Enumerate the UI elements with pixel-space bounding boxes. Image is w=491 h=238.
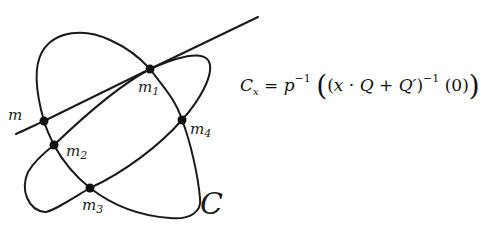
point-m bbox=[40, 117, 49, 126]
formula-x: x bbox=[334, 75, 344, 95]
point-m2 bbox=[50, 141, 59, 150]
formula-plus: + bbox=[374, 75, 399, 95]
point-m3 bbox=[86, 184, 95, 193]
label-m: m bbox=[8, 106, 22, 124]
formula-p-exp: −1 bbox=[295, 72, 311, 85]
formula-inner-exp: −1 bbox=[423, 72, 439, 85]
formula: Cx = p−1 ((x · Q + Q′)−1 (0)) bbox=[240, 66, 480, 107]
label-m1: m1 bbox=[138, 78, 159, 98]
formula-q: Q bbox=[360, 75, 374, 95]
formula-dot: · bbox=[343, 75, 359, 95]
label-curve-c: C bbox=[200, 186, 223, 221]
tilted-ellipse bbox=[25, 55, 210, 212]
formula-open: ( bbox=[327, 75, 334, 95]
secant-line bbox=[16, 17, 258, 134]
formula-close-big: ) bbox=[469, 69, 480, 102]
point-m1 bbox=[146, 65, 155, 74]
formula-open-big: ( bbox=[316, 69, 327, 102]
label-m3: m3 bbox=[82, 196, 103, 216]
formula-eq: = bbox=[259, 75, 284, 95]
formula-qprime: Q′ bbox=[399, 75, 417, 95]
formula-p: p bbox=[284, 75, 295, 95]
point-m4 bbox=[178, 116, 187, 125]
diagram-figure: m m1 m2 m3 m4 C bbox=[0, 0, 491, 238]
formula-lhs: C bbox=[240, 75, 253, 95]
label-m4: m4 bbox=[190, 120, 211, 140]
label-m2: m2 bbox=[66, 142, 87, 162]
formula-arg: (0) bbox=[439, 75, 468, 95]
